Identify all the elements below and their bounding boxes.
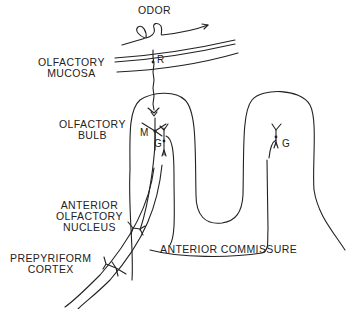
marker-mitral: M bbox=[140, 127, 149, 138]
label-anterior-olfactory-nucleus: ANTERIOR OLFACTORY NUCLEUS bbox=[56, 200, 123, 233]
granule-left-body bbox=[163, 140, 166, 143]
odor-arrow bbox=[122, 24, 208, 45]
mucosa-surface-line-2 bbox=[115, 44, 235, 62]
olfactory-pathway-diagram: ODOR R OLFACTORY MUCOSA OLFACTORY BULB M… bbox=[0, 0, 358, 309]
label-prepyriform-cortex: PREPYRIFORM CORTEX bbox=[10, 253, 91, 275]
receptor-axon bbox=[153, 50, 154, 110]
anterior-commissure-contour bbox=[150, 160, 268, 256]
label-anterior-commissure: ANTERIOR COMMISSURE bbox=[160, 244, 297, 255]
marker-receptor: R bbox=[157, 54, 165, 65]
commissural-fiber-right bbox=[269, 140, 276, 158]
mitral-axon bbox=[140, 131, 155, 230]
prepyriform-terminal bbox=[103, 257, 126, 276]
marker-granule-right: G bbox=[282, 138, 290, 149]
marker-granule-left: G bbox=[154, 138, 162, 149]
granule-right-body bbox=[275, 136, 278, 139]
receptor-cell-body bbox=[152, 61, 155, 64]
commissural-fiber-left bbox=[166, 136, 174, 245]
label-olfactory-mucosa: OLFACTORY MUCOSA bbox=[38, 57, 105, 79]
label-odor: ODOR bbox=[138, 5, 171, 16]
lateral-olfactory-tract-inner bbox=[78, 165, 162, 309]
label-olfactory-bulb: OLFACTORY BULB bbox=[59, 119, 126, 141]
